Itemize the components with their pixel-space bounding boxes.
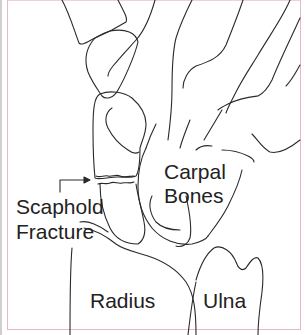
label-carpal: Carpal <box>164 160 226 184</box>
label-radius: Radius <box>90 289 155 313</box>
metacarpal-outline-1 <box>62 0 127 44</box>
label-fracture: Fracture <box>16 220 94 244</box>
pisiform-curve <box>222 150 254 162</box>
trapezoid-outline <box>93 92 146 179</box>
capitate-edge <box>146 124 156 148</box>
metacarpal-line-6 <box>218 18 300 110</box>
metacarpal-outline-2 <box>108 0 155 76</box>
carpal-diagonal-1 <box>180 120 190 148</box>
carpal-small-stroke <box>196 146 212 150</box>
metacarpal-line-4 <box>183 0 243 88</box>
label-bones: Bones <box>164 184 224 208</box>
carpal-line-right <box>252 134 300 152</box>
metacarpal-line-3 <box>168 0 192 140</box>
wrist-bones-illustration <box>0 0 308 335</box>
trapezium-outline <box>86 30 138 98</box>
radius-outline-left <box>70 248 72 335</box>
fracture-line-bottom <box>98 182 134 184</box>
fracture-pointer-arrowhead <box>84 177 90 183</box>
metacarpal-line-7 <box>286 65 300 86</box>
label-scaphoid: Scaphold <box>16 195 104 219</box>
label-ulna: Ulna <box>203 289 246 313</box>
capitate-inner-curve <box>106 108 139 153</box>
carpal-diagonal-2 <box>204 110 222 140</box>
diagram-canvas: Carpal Bones Scaphold Fracture Radius Ul… <box>0 0 308 335</box>
